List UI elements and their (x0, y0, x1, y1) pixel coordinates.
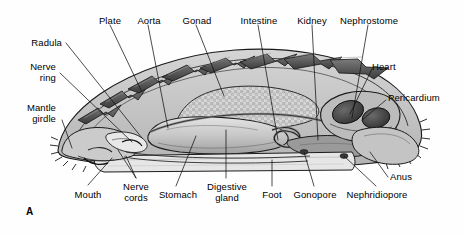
chiton-anatomy-figure: Plate Aorta Gonad Intestine Kidney Nephr… (0, 0, 465, 234)
label-radula: Radula (6, 38, 62, 49)
label-nerve-ring: Nerve ring (6, 62, 56, 83)
label-anus: Anus (390, 172, 432, 183)
label-mouth: Mouth (62, 190, 114, 201)
panel-letter: A (26, 206, 33, 217)
label-nephridiopore: Nephridiopore (336, 190, 418, 201)
label-gonad: Gonad (168, 16, 226, 27)
label-heart: Heart (372, 62, 416, 73)
label-mantle-girdle: Mantle girdle (2, 103, 56, 124)
label-intestine: Intestine (226, 16, 292, 27)
label-digestive-gland: Digestive gland (196, 182, 258, 203)
label-nephrostome: Nephrostome (330, 16, 408, 27)
label-pericardium: Pericardium (388, 93, 464, 104)
